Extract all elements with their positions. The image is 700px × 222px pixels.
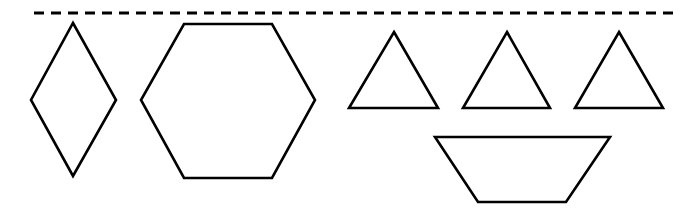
hexagon-shape bbox=[141, 24, 315, 178]
figure-svg bbox=[0, 0, 700, 222]
triangle-shape-3 bbox=[575, 32, 663, 108]
pattern-blocks-figure bbox=[0, 0, 700, 222]
trapezoid-shape bbox=[435, 137, 610, 202]
triangle-shape-1 bbox=[349, 32, 438, 108]
rhombus-shape bbox=[31, 23, 116, 176]
triangle-shape-2 bbox=[463, 32, 550, 108]
